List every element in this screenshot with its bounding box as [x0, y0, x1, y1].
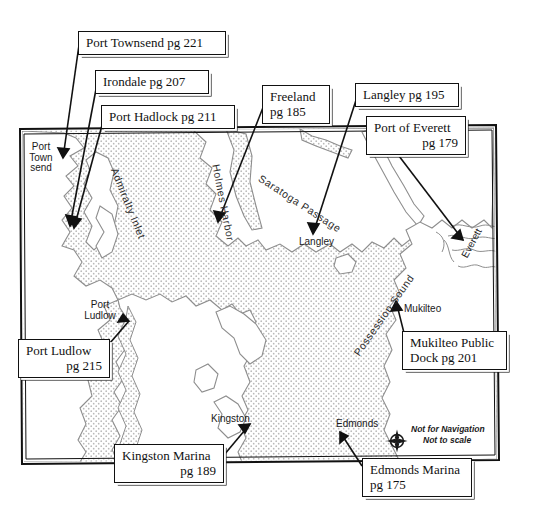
- callout-text: Mukilteo Public: [410, 335, 499, 350]
- callout-page: pg 185: [270, 104, 322, 119]
- map-disclaimer: Not for Navigation Not to scale: [411, 424, 485, 445]
- callout-text: Kingston Marina: [122, 448, 216, 463]
- callout-text: Port Ludlow: [26, 343, 102, 358]
- map-figure: Port Town send Langley Port Ludlow Mukil…: [0, 0, 537, 529]
- place-label-port-ludlow: Port Ludlow: [78, 300, 122, 321]
- compass-north-letter: N: [395, 438, 400, 445]
- callout-port-ludlow[interactable]: Port Ludlow pg 215: [18, 339, 110, 378]
- disclaimer-line-2: Not to scale: [411, 435, 485, 446]
- callout-text: Irondale pg 207: [103, 74, 201, 89]
- callout-text: Port Hadlock pg 211: [109, 109, 227, 124]
- callout-page: Dock pg 201: [410, 350, 499, 365]
- map-canvas: [0, 0, 537, 529]
- callout-freeland[interactable]: Freeland pg 185: [262, 85, 330, 124]
- callout-irondale[interactable]: Irondale pg 207: [95, 70, 209, 94]
- callout-mukilteo-public-dock[interactable]: Mukilteo Public Dock pg 201: [402, 331, 507, 370]
- callout-text: Port of Everett: [374, 120, 458, 135]
- callout-kingston-marina[interactable]: Kingston Marina pg 189: [114, 444, 224, 483]
- callout-port-hadlock[interactable]: Port Hadlock pg 211: [101, 105, 235, 129]
- callout-langley[interactable]: Langley pg 195: [355, 83, 459, 107]
- callout-page: pg 215: [26, 358, 102, 373]
- callout-page: pg 179: [374, 135, 458, 150]
- compass-rose-icon: N: [386, 429, 408, 453]
- place-label-mukilteo: Mukilteo: [404, 304, 441, 315]
- place-label-kingston: Kingston: [211, 414, 250, 425]
- callout-text: Edmonds Marina: [370, 462, 464, 477]
- place-label-langley: Langley: [299, 237, 334, 248]
- callout-text: Port Townsend pg 221: [86, 35, 218, 50]
- callout-text: Freeland: [270, 89, 322, 104]
- disclaimer-line-1: Not for Navigation: [411, 424, 485, 434]
- callout-port-of-everett[interactable]: Port of Everett pg 179: [366, 116, 466, 155]
- callout-text: Langley pg 195: [363, 87, 451, 102]
- callout-port-townsend[interactable]: Port Townsend pg 221: [78, 31, 226, 55]
- callout-page: pg 189: [122, 463, 216, 478]
- place-label-edmonds: Edmonds: [336, 419, 378, 430]
- callout-edmonds-marina[interactable]: Edmonds Marina pg 175: [362, 458, 472, 497]
- place-label-port-townsend: Port Town send: [25, 142, 57, 174]
- callout-page: pg 175: [370, 477, 464, 492]
